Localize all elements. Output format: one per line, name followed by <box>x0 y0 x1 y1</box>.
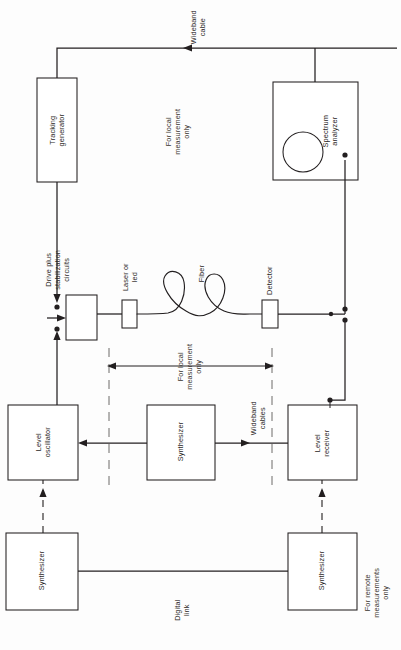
spectrum-analyzer-display-icon <box>283 132 323 172</box>
block-synthesizer-right[interactable] <box>288 533 357 610</box>
fiber-optic-spool <box>137 271 262 315</box>
wire-detector-outputs <box>278 160 348 400</box>
block-synthesizer-mid[interactable] <box>147 405 215 480</box>
wire-synth-to-level-receiver <box>215 439 288 446</box>
wire-tracking-generator-to-drive <box>53 182 60 310</box>
wire-synth-to-level-oscillator <box>78 439 147 446</box>
wire-level-oscillator-to-drive <box>53 326 60 405</box>
wire-wideband-cable <box>57 44 397 82</box>
block-laser-or-led[interactable] <box>122 300 137 328</box>
dashed-link-left-synth-to-oscillator <box>39 480 46 533</box>
block-level-receiver[interactable] <box>288 405 357 480</box>
block-synthesizer-left[interactable] <box>6 533 78 610</box>
block-detector[interactable] <box>262 300 278 328</box>
wire-into-drive-mid <box>47 314 66 321</box>
block-drive-circuits[interactable] <box>66 295 97 340</box>
dashed-link-right-synth-to-receiver <box>318 480 325 533</box>
junction-dot-analyzer-input <box>342 152 347 157</box>
diagram-vector-layer <box>0 0 401 650</box>
block-diagram-canvas: Tracking generator Spectrum analyzer Dri… <box>0 0 401 650</box>
block-tracking-generator[interactable] <box>37 78 77 182</box>
block-level-oscillator[interactable] <box>8 405 78 480</box>
